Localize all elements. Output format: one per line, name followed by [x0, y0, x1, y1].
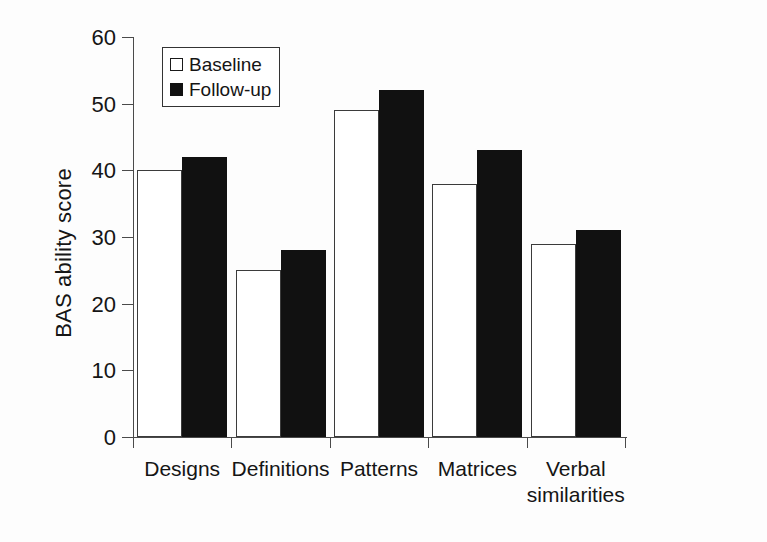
y-axis-tick-mark: [122, 104, 133, 105]
bar-baseline-patterns: [334, 110, 379, 437]
legend-label-followup: Follow-up: [189, 80, 271, 99]
x-axis-tick-mark: [133, 437, 134, 448]
bar-baseline-designs: [137, 170, 182, 437]
x-axis-tick-mark: [231, 437, 232, 448]
x-axis-tick-mark: [527, 437, 528, 448]
x-axis-line: [133, 437, 627, 438]
bar-chart-figure: BAS ability score 0102030405060 DesignsD…: [0, 0, 767, 542]
legend-item-baseline: Baseline: [170, 52, 273, 77]
y-axis-tick-mark: [122, 304, 133, 305]
bar-follow-up-patterns: [379, 90, 424, 437]
filled-square-swatch-icon: [170, 83, 183, 96]
y-axis-title: BAS ability score: [51, 123, 77, 383]
y-axis-tick-label: 40: [40, 170, 116, 171]
y-axis-tick-label: 30: [40, 237, 116, 238]
x-axis-tick-mark: [428, 437, 429, 448]
y-axis-tick-label: 10: [40, 370, 116, 371]
y-axis-tick-label: 60: [40, 37, 116, 38]
bar-baseline-verbal-similarities: [531, 244, 576, 437]
open-square-swatch-icon: [170, 58, 183, 71]
bar-baseline-definitions: [236, 270, 281, 437]
legend-item-followup: Follow-up: [170, 77, 273, 102]
y-axis-tick-label: 50: [40, 104, 116, 105]
y-axis-tick-mark: [122, 437, 133, 438]
y-axis-tick-label: 20: [40, 304, 116, 305]
y-axis-tick-mark: [122, 170, 133, 171]
y-axis-tick-mark: [122, 370, 133, 371]
y-axis-tick-label: 0: [40, 437, 116, 438]
bar-baseline-matrices: [432, 184, 477, 437]
bar-follow-up-definitions: [281, 250, 326, 437]
bar-follow-up-verbal-similarities: [576, 230, 621, 437]
bar-follow-up-matrices: [477, 150, 522, 437]
bar-follow-up-designs: [182, 157, 227, 437]
x-axis-tick-mark: [330, 437, 331, 448]
x-axis-tick-mark: [625, 437, 626, 448]
chart-legend: Baseline Follow-up: [162, 47, 280, 107]
y-axis-tick-mark: [122, 37, 133, 38]
x-axis-category-label: Verbalsimilarities: [515, 456, 637, 509]
y-axis-tick-mark: [122, 237, 133, 238]
legend-label-baseline: Baseline: [189, 55, 262, 74]
